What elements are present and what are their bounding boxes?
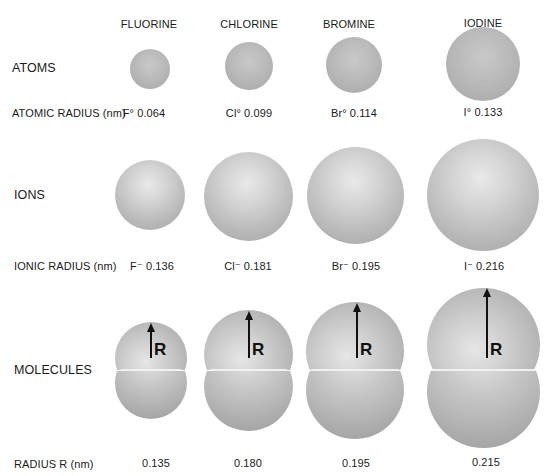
ionic-radius-label: IONIC RADIUS (nm): [14, 260, 117, 272]
atom-sphere-fluorine: [130, 49, 170, 89]
radius-arrow-icon: [150, 331, 152, 358]
atomic-radius-label: ATOMIC RADIUS (nm): [12, 107, 126, 119]
molecular-radius-bromine: 0.195: [342, 457, 370, 469]
atomic-radius-bromine: Br° 0.114: [331, 107, 377, 119]
row-label-atoms: ATOMS: [12, 61, 56, 75]
ion-sphere-fluorine: [115, 160, 185, 230]
radius-r-label: R: [154, 340, 166, 360]
radius-arrow-icon: [486, 296, 488, 358]
atomic-radius-chlorine: Cl° 0.099: [226, 107, 272, 119]
column-header-chlorine: CHLORINE: [220, 18, 278, 30]
arrowhead-icon: [353, 303, 361, 312]
ionic-radius-iodine: I⁻ 0.216: [464, 260, 504, 273]
radius-arrow-icon: [248, 319, 250, 358]
ionic-radius-fluorine: F⁻ 0.136: [130, 260, 174, 273]
column-header-bromine: BROMINE: [323, 18, 375, 30]
ionic-radius-chlorine: Cl⁻ 0.181: [224, 260, 272, 273]
arrowhead-icon: [245, 311, 253, 320]
atomic-radius-iodine: I° 0.133: [464, 106, 503, 118]
radius-r-label: R: [360, 340, 372, 360]
atom-sphere-chlorine: [225, 42, 273, 90]
row-label-molecules: MOLECULES: [14, 363, 92, 377]
ion-sphere-bromine: [307, 147, 404, 244]
arrowhead-icon: [147, 323, 155, 332]
molecular-radius-label: RADIUS R (nm): [14, 458, 94, 470]
column-header-fluorine: FLUORINE: [121, 18, 177, 30]
molecular-radius-fluorine: 0.135: [142, 457, 170, 469]
ion-sphere-chlorine: [204, 152, 293, 241]
radius-r-label: R: [490, 340, 502, 360]
row-label-ions: IONS: [14, 188, 45, 202]
atom-sphere-iodine: [446, 27, 520, 101]
ionic-radius-bromine: Br⁻ 0.195: [332, 260, 380, 273]
atom-sphere-bromine: [326, 37, 382, 93]
radius-r-label: R: [252, 340, 264, 360]
molecular-radius-chlorine: 0.180: [234, 457, 262, 469]
atomic-radius-fluorine: F° 0.064: [123, 107, 166, 119]
molecular-radius-iodine: 0.215: [472, 456, 500, 468]
radius-arrow-icon: [356, 311, 358, 358]
arrowhead-icon: [483, 288, 491, 297]
ion-sphere-iodine: [427, 139, 539, 251]
